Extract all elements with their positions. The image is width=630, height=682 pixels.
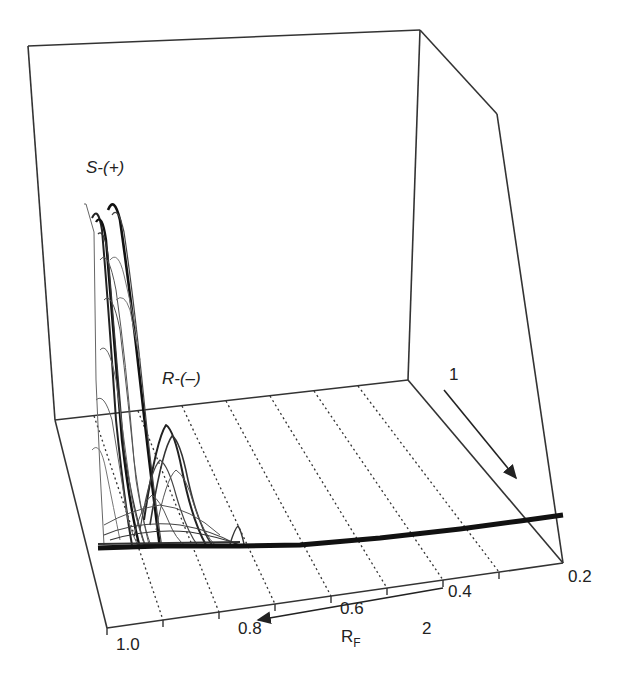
s-peak-label: S-(+) — [86, 158, 124, 177]
x-axis-label: RF — [341, 627, 361, 650]
arrow-1-label: 1 — [449, 365, 458, 384]
box-frame — [28, 30, 563, 628]
x-axis-ticks — [107, 572, 499, 635]
r-peak-label: R-(–) — [162, 369, 201, 388]
tick-label-1-0: 1.0 — [116, 635, 140, 654]
tick-label-0-8: 0.8 — [238, 619, 262, 638]
waterfall-chart: S-(+) R-(–) 1 2 RF 1.0 0.8 0.6 0.4 0.2 — [0, 0, 630, 682]
tick-label-0-2: 0.2 — [568, 567, 592, 586]
r-peak-traces — [104, 425, 244, 546]
arrow-2-label: 2 — [422, 619, 431, 638]
tick-label-0-4: 0.4 — [448, 582, 472, 601]
tick-label-0-6: 0.6 — [340, 599, 364, 618]
